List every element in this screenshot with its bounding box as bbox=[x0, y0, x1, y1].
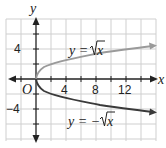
svg-text:x: x bbox=[106, 114, 114, 129]
chart-canvas: y x O 4 8 12 4 −4 y = x y = − x bbox=[0, 0, 166, 148]
y-tick-4: 4 bbox=[14, 42, 21, 56]
svg-text:x: x bbox=[96, 43, 104, 58]
origin-label: O bbox=[22, 82, 32, 97]
svg-text:y = −: y = − bbox=[66, 114, 100, 129]
curve-sqrt-x bbox=[36, 46, 152, 79]
y-axis-label: y bbox=[28, 1, 37, 16]
label-lower-curve: y = − x bbox=[66, 112, 115, 129]
x-tick-12: 12 bbox=[118, 83, 132, 97]
y-tick-neg4: −4 bbox=[6, 102, 20, 116]
label-upper-curve: y = x bbox=[67, 41, 105, 58]
x-axis-arrow-right-icon bbox=[150, 76, 158, 83]
x-tick-4: 4 bbox=[61, 83, 68, 97]
svg-text:y =: y = bbox=[67, 43, 88, 58]
x-axis-label: x bbox=[157, 72, 165, 87]
y-axis-arrow-up-icon bbox=[33, 17, 40, 25]
x-axis-arrow-left-icon bbox=[8, 76, 16, 83]
x-tick-8: 8 bbox=[92, 83, 99, 97]
